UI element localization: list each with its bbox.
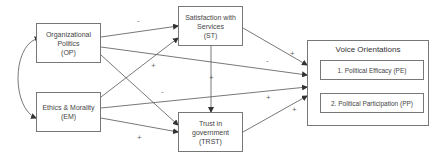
node-political-participation: 2. Political Participation (PP) — [320, 93, 424, 113]
node-em-line-2: (EM) — [42, 112, 94, 121]
edge-em-st — [101, 38, 178, 97]
sign-em-voice: + — [266, 94, 271, 102]
sign-em-trst: + — [137, 134, 142, 142]
node-organizational-politics: Organizational Politics (OP) — [36, 23, 101, 63]
sign-op-trst: - — [161, 88, 164, 96]
sign-em-st: + — [151, 62, 156, 70]
edge-op-em-correlation — [18, 39, 36, 118]
node-satisfaction-with-services: Satisfaction with Services (ST) — [178, 6, 243, 46]
edge-op-trst — [101, 55, 178, 125]
sign-trst-voice: + — [292, 106, 297, 114]
node-st-line-1: Satisfaction with — [185, 13, 236, 22]
edge-st-voice — [243, 28, 307, 65]
sign-st-voice: + — [290, 50, 295, 58]
edge-em-trst — [101, 118, 178, 132]
voice-orientations-title: Voice Orientations — [308, 45, 428, 54]
edge-em-voice — [101, 87, 307, 108]
node-st-line-3: (ST) — [185, 31, 236, 40]
edge-op-voice — [101, 47, 307, 75]
node-op-line-2: Politics — [46, 39, 91, 48]
node-political-efficacy: 1. Political Efficacy (PE) — [320, 60, 424, 80]
sign-op-voice: - — [266, 57, 269, 65]
node-trust-in-government: Trust in government (TRST) — [178, 112, 243, 152]
sign-op-st: - — [137, 17, 140, 25]
node-ethics-morality: Ethics & Morality (EM) — [36, 92, 101, 132]
node-st-line-2: Services — [185, 22, 236, 31]
node-trst-line-3: (TRST) — [192, 137, 229, 146]
node-op-line-3: (OP) — [46, 48, 91, 57]
edge-trst-voice — [243, 96, 307, 132]
sign-st-trst: + — [209, 74, 214, 82]
node-trst-line-2: government — [192, 128, 229, 137]
node-voice-orientations: Voice Orientations 1. Political Efficacy… — [307, 40, 429, 126]
edge-op-st — [101, 26, 178, 37]
node-trst-line-1: Trust in — [192, 119, 229, 128]
node-op-line-1: Organizational — [46, 30, 91, 39]
node-em-line-1: Ethics & Morality — [42, 103, 94, 112]
